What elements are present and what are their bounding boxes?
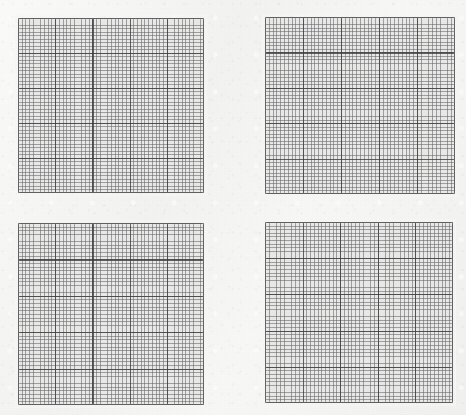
grid-panel-top-left bbox=[18, 18, 204, 193]
graph-paper-sheet bbox=[0, 0, 466, 415]
grid-lines-top-left bbox=[18, 18, 204, 193]
grid-panel-top-right bbox=[265, 17, 455, 194]
grid-panel-bottom-right bbox=[265, 222, 453, 403]
grid-lines-bottom-right bbox=[265, 222, 453, 403]
grid-panel-bottom-left bbox=[18, 223, 204, 405]
grid-lines-top-right bbox=[265, 17, 455, 194]
grid-lines-bottom-left bbox=[18, 223, 204, 405]
